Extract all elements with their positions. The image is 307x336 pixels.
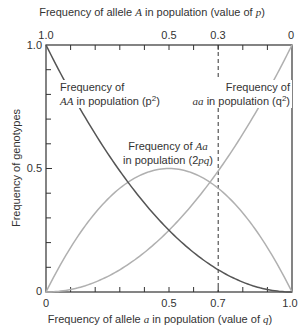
annotation-aa-line2: aa in population (q2) bbox=[193, 94, 290, 107]
annotation-AA-line2: AA in population (p2) bbox=[59, 94, 160, 107]
annotation-AA-line1: Frequency of bbox=[60, 81, 125, 93]
annotation-Aa-line1: Frequency of Aa bbox=[128, 140, 208, 152]
top-tick-label: 0.5 bbox=[161, 29, 176, 41]
annotation-aa-line1: Frequency of bbox=[226, 81, 291, 93]
bottom-tick-label: 0.7 bbox=[210, 297, 225, 309]
y-tick-label: 0.5 bbox=[27, 162, 42, 174]
top-tick-label: 0 bbox=[288, 29, 294, 41]
bottom-tick-label: 0.5 bbox=[161, 297, 176, 309]
top-axis-title: Frequency of allele A in population (val… bbox=[39, 6, 265, 18]
bottom-tick-label: 0 bbox=[43, 297, 49, 309]
top-tick-label: 0.3 bbox=[210, 29, 225, 41]
bottom-tick-label: 1.0 bbox=[282, 297, 297, 309]
y-axis-title: Frequency of genotypes bbox=[10, 108, 22, 227]
genotype-frequency-chart: Frequency of allele A in population (val… bbox=[0, 0, 307, 336]
y-tick-label: 1.0 bbox=[27, 39, 42, 51]
bottom-axis-title: Frequency of allele a in population (val… bbox=[48, 313, 272, 325]
y-tick-label: 0 bbox=[36, 285, 42, 297]
annotation-Aa-line2: in population (2pq) bbox=[123, 154, 213, 166]
